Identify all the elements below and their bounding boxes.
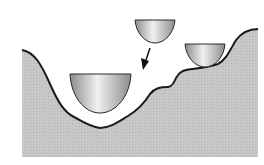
energy-landscape-diagram xyxy=(0,0,264,165)
bowl-falling xyxy=(135,20,175,43)
bowl-global-minimum xyxy=(70,74,131,113)
arrow-down-icon xyxy=(141,48,150,70)
